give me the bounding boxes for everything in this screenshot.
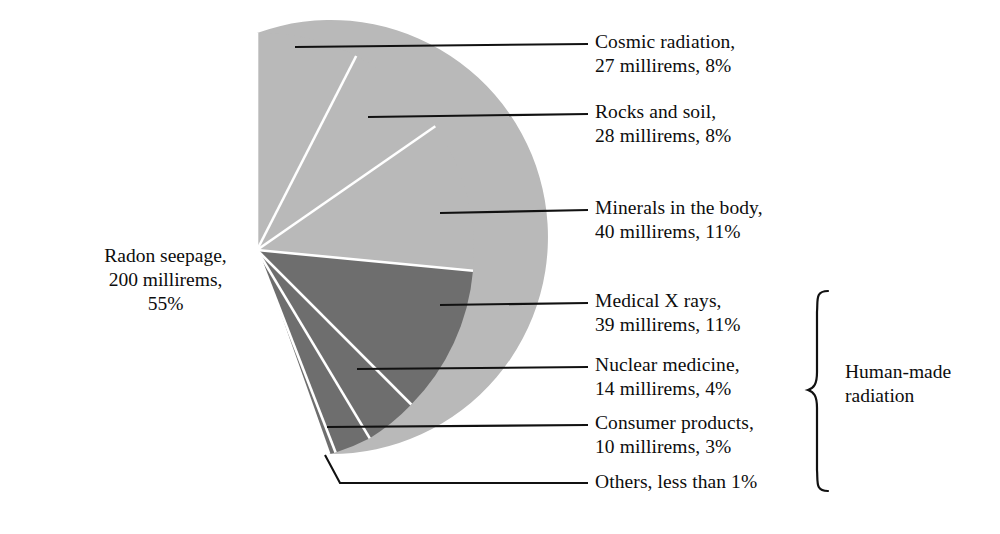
medical-label-line2: 39 millirems, 11%: [595, 313, 741, 337]
nuclear-label-line1: Nuclear medicine,: [595, 354, 740, 375]
minerals-in-the-body-label: Minerals in the body, 40 millirems, 11%: [595, 196, 763, 243]
others-label-line1: Others, less than 1%: [595, 471, 757, 492]
others-label: Others, less than 1%: [595, 470, 757, 494]
minerals-label-line1: Minerals in the body,: [595, 197, 763, 218]
radon-label-line3: 55%: [148, 293, 184, 314]
leader-line-others: [325, 455, 588, 483]
radon-label-line1: Radon seepage,: [104, 245, 226, 266]
consumer-label-line1: Consumer products,: [595, 412, 754, 433]
minerals-label-line2: 40 millirems, 11%: [595, 220, 763, 244]
rocks-label-line1: Rocks and soil,: [595, 101, 716, 122]
nuclear-label-line2: 14 millirems, 4%: [595, 377, 740, 401]
consumer-products-label: Consumer products, 10 millirems, 3%: [595, 411, 754, 458]
pie-slices: [257, 20, 548, 454]
pie-chart-figure: Radon seepage, 200 millirems, 55% Cosmic…: [0, 0, 1000, 534]
cosmic-radiation-label: Cosmic radiation, 27 millirems, 8%: [595, 30, 735, 77]
nuclear-medicine-label: Nuclear medicine, 14 millirems, 4%: [595, 353, 740, 400]
rocks-label-line2: 28 millirems, 8%: [595, 124, 731, 148]
group-label-line1: Human-made: [845, 361, 951, 382]
radon-seepage-label: Radon seepage, 200 millirems, 55%: [58, 244, 273, 316]
human-made-brace: [808, 291, 828, 491]
group-label-line2: radiation: [845, 385, 914, 406]
medical-label-line1: Medical X rays,: [595, 290, 722, 311]
human-made-radiation-label: Human-made radiation: [845, 360, 951, 408]
consumer-label-line2: 10 millirems, 3%: [595, 435, 754, 459]
rocks-and-soil-label: Rocks and soil, 28 millirems, 8%: [595, 100, 731, 147]
cosmic-label-line2: 27 millirems, 8%: [595, 54, 735, 78]
radon-label-line2: 200 millirems,: [109, 269, 223, 290]
cosmic-label-line1: Cosmic radiation,: [595, 31, 735, 52]
medical-x-rays-label: Medical X rays, 39 millirems, 11%: [595, 289, 741, 336]
